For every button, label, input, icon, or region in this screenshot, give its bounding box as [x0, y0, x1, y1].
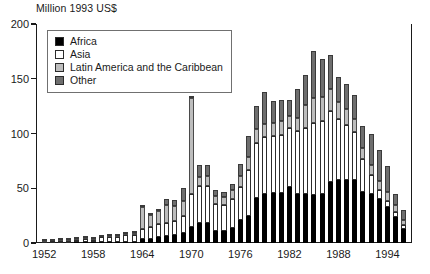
- x-tick-label: 1970: [179, 248, 203, 260]
- bar-segment-africa: [254, 198, 259, 243]
- bar-segment-other: [74, 237, 79, 239]
- bar-segment-latin-america-and-the-caribbean: [328, 89, 333, 111]
- bar-segment-asia: [91, 240, 96, 243]
- bar-segment-other: [66, 238, 71, 240]
- legend-label: Asia: [70, 48, 90, 61]
- bar-1995: [393, 194, 398, 243]
- bar-segment-latin-america-and-the-caribbean: [287, 116, 292, 128]
- bar-segment-latin-america-and-the-caribbean: [172, 206, 177, 221]
- bar-segment-latin-america-and-the-caribbean: [295, 118, 300, 131]
- bar-1996: [401, 210, 406, 243]
- bar-segment-other: [369, 134, 374, 166]
- bar-segment-asia: [328, 111, 333, 182]
- bar-1963: [132, 233, 137, 243]
- legend-item-other: Other: [55, 74, 223, 87]
- bar-segment-asia: [221, 205, 226, 231]
- bar-1994: [385, 166, 390, 243]
- bar-segment-asia: [320, 121, 325, 193]
- bar-segment-latin-america-and-the-caribbean: [401, 220, 406, 225]
- bar-segment-africa: [262, 194, 267, 243]
- bar-1981: [279, 100, 284, 243]
- bar-1985: [311, 51, 316, 243]
- bar-1975: [230, 184, 235, 243]
- x-tick-label: 1976: [228, 248, 252, 260]
- bar-segment-other: [197, 165, 202, 177]
- legend-item-asia: Asia: [55, 48, 223, 61]
- bar-segment-africa: [344, 180, 349, 244]
- bar-segment-other: [279, 100, 284, 122]
- bar-segment-asia: [303, 128, 308, 194]
- bar-1978: [254, 106, 259, 243]
- bar-segment-asia: [74, 240, 79, 242]
- bar-1993: [377, 150, 382, 243]
- chart-figure: Million 1993 US$ 050100150200 1952195819…: [0, 0, 430, 274]
- bar-segment-asia: [295, 131, 300, 193]
- bar-segment-asia: [66, 241, 71, 243]
- bar-segment-africa: [181, 233, 186, 243]
- bar-1990: [352, 95, 357, 243]
- plot-right-border: [411, 24, 412, 243]
- bar-segment-latin-america-and-the-caribbean: [197, 177, 202, 186]
- bar-segment-asia: [213, 204, 218, 231]
- bar-segment-other: [360, 126, 365, 148]
- bar-segment-asia: [311, 123, 316, 195]
- bar-1974: [221, 192, 226, 243]
- bar-segment-asia: [205, 186, 210, 223]
- bar-1972: [205, 165, 210, 243]
- bar-segment-asia: [189, 194, 194, 227]
- bar-segment-other: [99, 235, 104, 237]
- x-tick-label: 1994: [375, 248, 399, 260]
- bar-segment-other: [230, 184, 235, 191]
- bar-segment-africa: [238, 220, 243, 243]
- bar-segment-other: [344, 84, 349, 109]
- bar-1967: [164, 199, 169, 243]
- bar-segment-latin-america-and-the-caribbean: [221, 197, 226, 205]
- bar-segment-other: [164, 199, 169, 205]
- bar-segment-other: [295, 89, 300, 119]
- bar-segment-other: [205, 165, 210, 176]
- y-tick-label: 50: [17, 182, 29, 194]
- y-axis-line: [36, 24, 37, 243]
- x-tick-label: 1988: [326, 248, 350, 260]
- bar-segment-africa: [156, 237, 161, 243]
- bar-segment-latin-america-and-the-caribbean: [344, 109, 349, 124]
- bar-segment-other: [115, 234, 120, 236]
- bar-segment-africa: [271, 193, 276, 243]
- bar-segment-other: [50, 239, 55, 241]
- bar-segment-latin-america-and-the-caribbean: [181, 201, 186, 215]
- bar-segment-asia: [271, 136, 276, 193]
- bar-segment-africa: [164, 236, 169, 243]
- bar-1987: [328, 55, 333, 243]
- bar-1957: [83, 237, 88, 243]
- bar-segment-asia: [385, 201, 390, 206]
- x-tick-label: 1982: [277, 248, 301, 260]
- bar-segment-other: [181, 188, 186, 201]
- bar-segment-other: [320, 59, 325, 97]
- bar-segment-other: [148, 213, 153, 215]
- bar-1953: [50, 240, 55, 243]
- y-tick: [31, 23, 36, 24]
- bar-segment-asia: [393, 212, 398, 216]
- bar-segment-other: [262, 92, 267, 124]
- bar-1992: [369, 134, 374, 244]
- bar-segment-asia: [344, 125, 349, 180]
- bar-1991: [360, 126, 365, 243]
- bar-segment-africa: [213, 231, 218, 243]
- bar-segment-other: [385, 166, 390, 191]
- bar-segment-asia: [360, 159, 365, 192]
- legend-swatch-icon: [55, 50, 64, 59]
- bar-1982: [287, 100, 292, 243]
- bar-segment-asia: [172, 221, 177, 235]
- legend-item-africa: Africa: [55, 35, 223, 48]
- bar-segment-latin-america-and-the-caribbean: [238, 176, 243, 187]
- bar-segment-other: [352, 95, 357, 119]
- bar-segment-asia: [99, 237, 104, 242]
- bar-segment-asia: [132, 235, 137, 242]
- bar-1965: [148, 213, 153, 243]
- bar-segment-africa: [385, 207, 390, 243]
- legend-swatch-icon: [55, 76, 64, 85]
- bar-segment-africa: [393, 217, 398, 243]
- bar-segment-latin-america-and-the-caribbean: [369, 165, 374, 175]
- bar-segment-other: [303, 75, 308, 105]
- bar-segment-latin-america-and-the-caribbean: [320, 97, 325, 121]
